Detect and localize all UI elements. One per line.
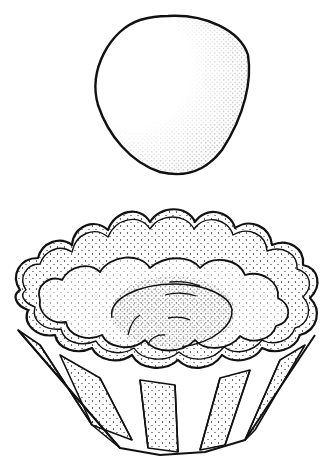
tart-illustration-svg: [0, 0, 331, 465]
dough-lining: [111, 276, 235, 348]
dough-ball: [90, 10, 265, 190]
illustration: Line drawing of a ball of dough above a …: [0, 0, 331, 465]
tart-tin: [16, 209, 318, 455]
